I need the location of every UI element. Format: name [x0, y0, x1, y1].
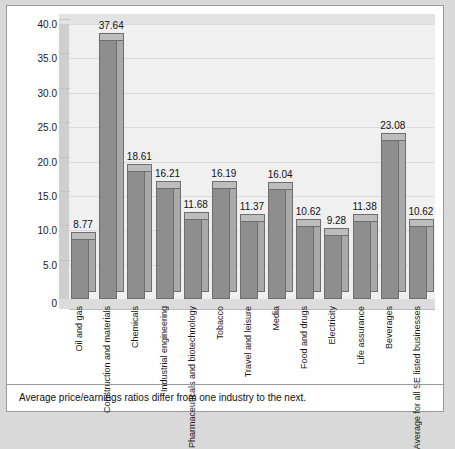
bar[interactable]	[240, 221, 258, 299]
bar-value-label: 11.68	[179, 199, 213, 210]
bar-front-face	[156, 188, 174, 299]
bar-top-face	[212, 181, 237, 189]
x-axis-category-label: Life assurance	[356, 306, 366, 365]
bar-value-label: 16.04	[263, 169, 297, 180]
bar-front-face	[324, 235, 342, 299]
y-axis-tick-label: 0	[23, 298, 57, 309]
gridline-wall-tick	[59, 19, 70, 20]
bar-value-label: 18.61	[122, 151, 156, 162]
chart-panel: 05.010.015.020.025.030.035.040.0 8.7737.…	[6, 5, 444, 412]
bar[interactable]	[156, 188, 174, 299]
bar-value-label: 11.38	[348, 201, 382, 212]
bar-side-face	[427, 219, 434, 292]
bar-front-face	[127, 171, 145, 299]
bar[interactable]	[71, 239, 89, 299]
bar-value-label: 16.21	[151, 168, 185, 179]
bar-side-face	[286, 182, 293, 292]
x-axis-category-label: Average for all SE listed businesses	[412, 306, 422, 449]
bar-value-label: 16.19	[207, 168, 241, 179]
bar-value-label: 8.77	[66, 219, 100, 230]
bar-top-face	[268, 182, 293, 190]
bar-series: 8.7737.6418.6116.2111.6816.1911.3716.041…	[69, 24, 435, 299]
bar-front-face	[99, 40, 117, 299]
bar-front-face	[353, 221, 371, 299]
x-axis-category-label: Travel and leisure	[243, 306, 253, 377]
bar-side-face	[202, 212, 209, 292]
bar-front-face	[409, 226, 427, 299]
y-axis-tick-label: 15.0	[23, 190, 57, 201]
bar-value-label: 10.62	[404, 206, 438, 217]
bar-side-face	[89, 232, 96, 292]
x-axis-category-label: Electricity	[327, 306, 337, 345]
bar-front-face	[240, 221, 258, 299]
bar[interactable]	[212, 188, 230, 299]
x-axis-category-label: Chemicals	[130, 306, 140, 348]
y-axis-tick-label: 5.0	[23, 259, 57, 270]
bar-top-face	[71, 232, 96, 240]
caption-divider	[7, 384, 443, 385]
bar-chart: 05.010.015.020.025.030.035.040.0 8.7737.…	[7, 6, 443, 384]
bar-value-label: 37.64	[94, 20, 128, 31]
x-axis-category-label: Food and drugs	[299, 306, 309, 369]
bar-top-face	[324, 228, 349, 236]
bar[interactable]	[324, 235, 342, 299]
bar[interactable]	[381, 140, 399, 299]
bar-side-face	[174, 181, 181, 292]
bar-front-face	[184, 219, 202, 299]
y-axis: 05.010.015.020.025.030.035.040.0	[17, 6, 57, 384]
bar-value-label: 23.08	[376, 120, 410, 131]
bar-side-face	[230, 181, 237, 292]
chart-caption: Average price/earnings ratios differ fro…	[19, 392, 306, 403]
x-axis-category-label: Industrial engineering	[159, 306, 169, 392]
bar[interactable]	[127, 171, 145, 299]
x-axis-category-label: Media	[271, 306, 281, 331]
bar-side-face	[258, 214, 265, 292]
bar-front-face	[212, 188, 230, 299]
bar[interactable]	[99, 40, 117, 299]
bar[interactable]	[268, 189, 286, 299]
bar-side-face	[371, 214, 378, 292]
bar-top-face	[184, 212, 209, 220]
y-axis-tick-label: 25.0	[23, 122, 57, 133]
plot-wall-left	[59, 24, 69, 299]
bar-top-face	[156, 181, 181, 189]
x-axis: Oil and gasConstruction and materialsChe…	[69, 306, 435, 384]
x-axis-category-label: Oil and gas	[74, 306, 84, 352]
y-axis-tick-label: 35.0	[23, 53, 57, 64]
bar-side-face	[342, 228, 349, 292]
bar-side-face	[314, 219, 321, 292]
x-axis-category-label: Beverages	[384, 306, 394, 349]
bar[interactable]	[296, 226, 314, 299]
x-axis-category-label: Tobacco	[215, 306, 225, 340]
bar-top-face	[409, 219, 434, 227]
bar-side-face	[117, 33, 124, 292]
bar-value-label: 9.28	[319, 215, 353, 226]
bar-top-face	[296, 219, 321, 227]
bar-top-face	[381, 133, 406, 141]
y-axis-tick-label: 10.0	[23, 225, 57, 236]
bar-front-face	[296, 226, 314, 299]
x-axis-category-label: Pharmaceuticals and biotechnology	[187, 306, 197, 448]
y-axis-tick-label: 30.0	[23, 87, 57, 98]
bar-front-face	[381, 140, 399, 299]
bar-top-face	[240, 214, 265, 222]
bar-side-face	[145, 164, 152, 292]
bar[interactable]	[353, 221, 371, 299]
bar-front-face	[268, 189, 286, 299]
bar-top-face	[353, 214, 378, 222]
bar[interactable]	[184, 219, 202, 299]
y-axis-tick-label: 40.0	[23, 19, 57, 30]
y-axis-tick-label: 20.0	[23, 156, 57, 167]
bar[interactable]	[409, 226, 427, 299]
bar-front-face	[71, 239, 89, 299]
bar-value-label: 11.37	[235, 201, 269, 212]
bar-top-face	[127, 164, 152, 172]
bar-top-face	[99, 33, 124, 41]
